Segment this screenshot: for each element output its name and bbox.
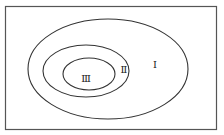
label-inner-set: Ⅲ [81, 73, 91, 84]
label-middle-set: Ⅱ [121, 64, 128, 75]
nested-sets-diagram: Ⅰ Ⅱ Ⅲ [0, 0, 224, 135]
label-outer-set: Ⅰ [153, 59, 157, 70]
diagram-frame [6, 7, 217, 130]
